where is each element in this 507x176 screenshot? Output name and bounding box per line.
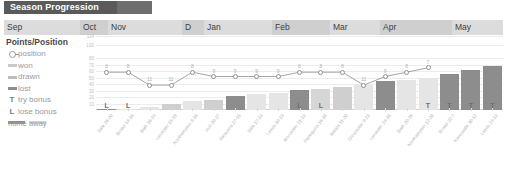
x-axis-label: Hull 20-27 bbox=[204, 113, 222, 133]
month-cell-apr: Apr bbox=[380, 20, 452, 35]
position-point bbox=[426, 65, 431, 70]
position-point bbox=[169, 83, 174, 88]
x-axis-label: Saracens 27-15 bbox=[218, 113, 243, 142]
x-axis-label: Newcastle 30-12 bbox=[453, 113, 479, 144]
x-axis-tick bbox=[214, 108, 215, 111]
position-point-label: 11 bbox=[168, 77, 173, 82]
x-axis-tick bbox=[235, 108, 236, 111]
x-axis-tick bbox=[385, 108, 386, 111]
chart-legend: Points/Position positionwondrawnlostTtry… bbox=[6, 37, 80, 118]
x-axis-label: Wasps 11-20 bbox=[329, 113, 350, 138]
x-axis-label: Bristol 14-16 bbox=[115, 113, 136, 137]
position-point bbox=[404, 70, 409, 75]
legend-item-label: drawn bbox=[18, 72, 40, 82]
month-cell-feb: Feb bbox=[272, 20, 330, 35]
position-point-label: 8 bbox=[105, 64, 108, 69]
x-axis-tick bbox=[300, 108, 301, 111]
position-point bbox=[147, 83, 152, 88]
position-point-label: 8 bbox=[127, 64, 130, 69]
position-point bbox=[340, 70, 345, 75]
y-axis-tick: 10 bbox=[89, 102, 94, 107]
position-point-label: 8 bbox=[298, 64, 301, 69]
x-axis-label: Bristol 22-7 bbox=[438, 113, 457, 135]
x-axis-tick bbox=[128, 108, 129, 111]
x-axis-label: Leeds 24-19 bbox=[480, 113, 500, 137]
season-progression-panel: Season Progression Month SepOctNovDJanFe… bbox=[0, 0, 507, 176]
x-axis-tick bbox=[428, 108, 429, 111]
legend-item-try-bonus: Ttry bonus bbox=[6, 95, 80, 105]
y-axis-tick: 60 bbox=[89, 69, 94, 74]
venue-labels: home away bbox=[8, 119, 78, 128]
home-label: home bbox=[8, 119, 27, 128]
x-axis-tick bbox=[257, 108, 258, 111]
chart-plot-area: 1141008070605040302010881111899998881198… bbox=[96, 36, 503, 110]
x-axis-labels: Sale 26-20Bristol 14-16Bath 16-24Leicest… bbox=[96, 111, 503, 171]
position-point bbox=[190, 70, 195, 75]
position-point bbox=[104, 70, 109, 75]
y-axis-tick: 20 bbox=[89, 95, 94, 100]
y-axis-tick: 100 bbox=[86, 43, 94, 48]
position-point bbox=[297, 70, 302, 75]
lost-swatch-icon bbox=[6, 84, 18, 94]
month-cell-jan: Jan bbox=[204, 20, 272, 35]
y-axis-tick: 70 bbox=[89, 63, 94, 68]
x-axis-tick bbox=[471, 108, 472, 111]
position-point-label: 8 bbox=[320, 64, 323, 69]
legend-item-label: position bbox=[18, 49, 46, 59]
x-axis-tick bbox=[342, 108, 343, 111]
legend-item-label: lost bbox=[18, 84, 30, 94]
x-axis-tick bbox=[449, 108, 450, 111]
y-axis-tick: 50 bbox=[89, 76, 94, 81]
month-header-row: SepOctNovDJanFebMarAprMay bbox=[4, 20, 503, 35]
letter-t-icon: T bbox=[6, 95, 18, 105]
position-point-label: 7 bbox=[427, 60, 430, 65]
x-axis-tick bbox=[407, 108, 408, 111]
position-point bbox=[361, 83, 366, 88]
position-point bbox=[383, 74, 388, 79]
x-axis-label: Bath 16-24 bbox=[139, 113, 158, 134]
position-point bbox=[233, 74, 238, 79]
x-axis-label: Sale 17-19 bbox=[246, 113, 264, 134]
x-axis-tick bbox=[150, 108, 151, 111]
x-axis-tick bbox=[192, 108, 193, 111]
legend-title: Points/Position bbox=[6, 37, 80, 47]
legend-item-lost: lost bbox=[6, 84, 80, 94]
legend-item-label: won bbox=[18, 61, 33, 71]
y-axis-tick: 30 bbox=[89, 89, 94, 94]
x-axis-label: Sale 26-20 bbox=[96, 113, 114, 134]
position-point-label: 9 bbox=[234, 69, 237, 74]
x-axis-tick bbox=[321, 108, 322, 111]
position-point-label: 9 bbox=[384, 69, 387, 74]
legend-item-won: won bbox=[6, 61, 80, 71]
month-cell-mar: Mar bbox=[330, 20, 380, 35]
position-point-label: 9 bbox=[255, 69, 258, 74]
position-point bbox=[276, 74, 281, 79]
x-axis-label: Bath 20-26 bbox=[396, 113, 415, 134]
y-axis-tick: 40 bbox=[89, 82, 94, 87]
position-point-label: 8 bbox=[341, 64, 344, 69]
position-point bbox=[126, 70, 131, 75]
y-axis-tick: 114 bbox=[87, 34, 94, 39]
x-axis-tick bbox=[171, 108, 172, 111]
legend-item-label: try bonus bbox=[18, 95, 51, 105]
x-axis-tick bbox=[364, 108, 365, 111]
position-point-label: 9 bbox=[277, 69, 280, 74]
month-cell-oct: Oct bbox=[80, 20, 108, 35]
won-swatch-icon bbox=[6, 61, 18, 71]
away-label: away bbox=[29, 119, 47, 128]
position-point-label: 8 bbox=[191, 64, 194, 69]
x-axis-label: Leicester 24-16 bbox=[369, 113, 393, 142]
position-marker-icon bbox=[6, 49, 18, 59]
month-cell-may: May bbox=[452, 20, 503, 35]
legend-item-drawn: drawn bbox=[6, 72, 80, 82]
legend-item-position: position bbox=[6, 49, 80, 59]
month-cell-sep: Sep bbox=[4, 20, 80, 35]
position-point-label: 11 bbox=[361, 77, 366, 82]
y-axis-tick: 80 bbox=[89, 56, 94, 61]
position-point-label: 8 bbox=[405, 64, 408, 69]
page-title: Season Progression bbox=[10, 2, 99, 13]
month-cell-d: D bbox=[182, 20, 204, 35]
x-axis-tick bbox=[107, 108, 108, 111]
x-axis-tick bbox=[278, 108, 279, 111]
x-axis-tick bbox=[492, 108, 493, 111]
